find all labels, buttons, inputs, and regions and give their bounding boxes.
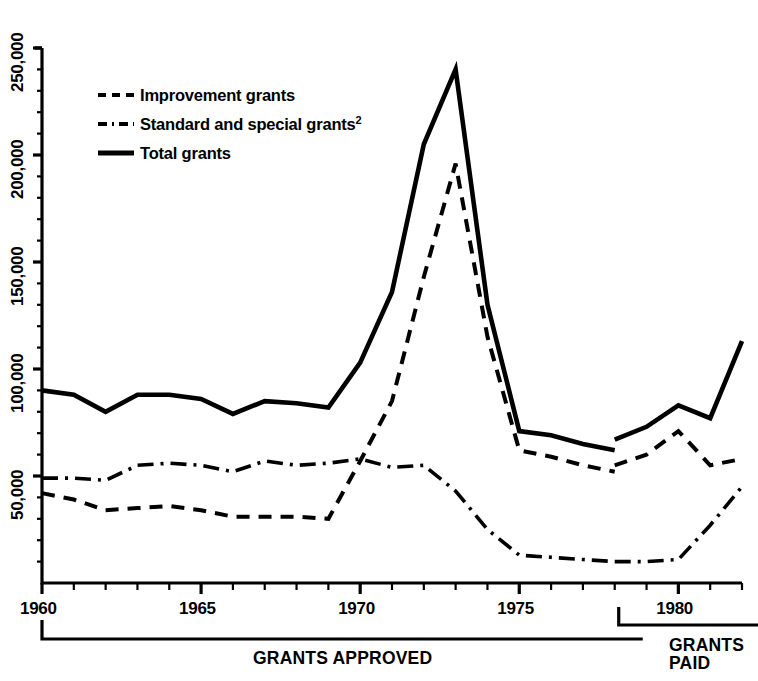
- legend-line-keys: [98, 95, 134, 153]
- bracket-label-grants-paid-line2: PAID: [669, 655, 744, 673]
- y-axis-tick-label: 200,000: [8, 140, 28, 199]
- legend-standard-footnote-marker: 2: [356, 114, 362, 126]
- series-line-solid-paid: [615, 341, 742, 439]
- y-axis-tick-label: 100,000: [8, 354, 28, 413]
- x-axis-tick-label: 1965: [179, 599, 216, 619]
- legend-total-text: Total grants: [140, 144, 231, 162]
- bracket-label-grants-approved: GRANTS APPROVED: [253, 648, 432, 669]
- legend-standard-text: Standard and special grants: [140, 115, 356, 133]
- x-axis-tick-label: 1960: [20, 599, 57, 619]
- x-axis-tick-label: 1975: [497, 599, 534, 619]
- legend-label-improvement-grants: Improvement grants: [140, 86, 295, 105]
- series-line-dashed-approved: [42, 164, 615, 519]
- x-axis-tick-label: 1970: [338, 599, 375, 619]
- chart-plot-area: [0, 0, 758, 681]
- legend-improvement-text: Improvement grants: [140, 86, 295, 104]
- x-axis-tick-label: 1980: [656, 599, 693, 619]
- y-axis-tick-label: 250,000: [8, 33, 28, 92]
- bracket-label-grants-paid: GRANTS PAID: [669, 637, 744, 673]
- series-line-dashed-paid: [615, 431, 742, 465]
- series-line-dash-dot-paid: [615, 487, 742, 562]
- legend-label-total-grants: Total grants: [140, 144, 231, 163]
- chart-brackets: [42, 607, 758, 639]
- bracket-grants-approved: [42, 620, 643, 639]
- y-axis-tick-label: 50,000: [8, 470, 28, 520]
- y-axis-tick-label: 150,000: [8, 247, 28, 306]
- legend-label-standard-special-grants: Standard and special grants2: [140, 115, 362, 134]
- chart-figure: 250,000200,000150,000100,00050,000 19601…: [0, 0, 758, 681]
